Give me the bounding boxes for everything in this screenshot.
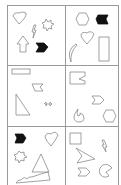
chevron-icon (92, 96, 104, 104)
pacman-icon (99, 164, 112, 177)
hexagon-icon (76, 13, 89, 25)
chevron-filled-icon (36, 43, 48, 52)
arrowhead-icon (76, 148, 95, 163)
arrow-up-icon (17, 36, 29, 52)
panel-1 (13, 12, 54, 52)
panel-4 (70, 72, 116, 122)
panel-5 (14, 132, 58, 183)
starburst-icon (14, 151, 27, 163)
double-arrow-icon (44, 102, 52, 106)
rectangle-icon (99, 37, 109, 61)
square-icon (70, 133, 81, 144)
chevron-filled-icon (15, 134, 26, 143)
chevron-icon (78, 168, 90, 176)
pacman-flame-icon (74, 109, 84, 122)
triangle-icon (32, 154, 49, 172)
heart-icon (13, 12, 26, 24)
notched-square-icon (70, 72, 85, 84)
starburst-icon (42, 19, 54, 31)
right-triangle-icon (16, 94, 30, 115)
notched-pentagon-icon (32, 84, 43, 91)
heart-icon (81, 32, 94, 44)
crescent-icon (69, 44, 77, 62)
shapes-layer (0, 0, 121, 185)
panel-2 (69, 13, 109, 62)
zigzag-wave-icon (16, 172, 50, 183)
lightning-bolt-icon (32, 25, 36, 38)
heart-icon (45, 132, 58, 146)
chevron-filled-icon (96, 15, 108, 24)
lightning-bolt-icon (102, 140, 107, 152)
rectangle-icon (12, 69, 30, 74)
panel-3 (12, 69, 52, 115)
panel-6 (70, 133, 112, 177)
hexagon-icon (103, 110, 116, 122)
